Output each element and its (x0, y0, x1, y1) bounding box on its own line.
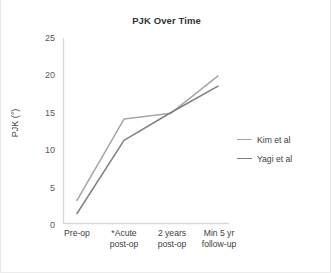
series-line-yagi-et-al (77, 86, 218, 213)
legend-item-kim-et-al[interactable]: Kim et al (237, 130, 329, 149)
legend-swatch-icon (237, 158, 252, 159)
x-tick-line-1: Min 5 yr (195, 228, 243, 239)
x-tick-label-min-5-yr-follow-up: Min 5 yr follow-up (195, 228, 243, 249)
x-tick-line-1: 2 years (148, 228, 196, 239)
x-tick-label-pre-op: Pre-op (53, 228, 101, 239)
x-tick-line-1: Pre-op (53, 228, 101, 239)
chart-figure: PJK Over Time PJK (°) 25 20 15 10 5 0 Pr… (0, 0, 331, 273)
legend-label-yagi-et-al: Yagi et al (257, 154, 292, 164)
x-tick-line-2: post-op (100, 239, 148, 250)
legend-label-kim-et-al: Kim et al (257, 135, 290, 145)
legend-swatch-icon (237, 139, 252, 140)
x-tick-label-2-years-post-op: 2 years post-op (148, 228, 196, 249)
legend-item-yagi-et-al[interactable]: Yagi et al (237, 149, 329, 168)
x-tick-label-acute-post-op: *Acute post-op (100, 228, 148, 249)
chart-legend: Kim et al Yagi et al (237, 130, 329, 168)
x-tick-line-1: *Acute (100, 228, 148, 239)
x-tick-line-2: follow-up (195, 239, 243, 250)
x-tick-line-2: post-op (148, 239, 196, 250)
